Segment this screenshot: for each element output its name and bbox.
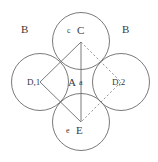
figure-container: B B c C A a D,1 D,2 e E <box>0 0 158 162</box>
label-region-b-right: B <box>122 24 129 35</box>
label-vertex-a: A <box>68 77 76 88</box>
label-vertex-c: C <box>77 25 84 36</box>
label-angle-a: a <box>79 79 83 87</box>
label-arc-c-lowercase: c <box>67 27 71 35</box>
label-region-b-left: B <box>21 24 28 35</box>
label-vertex-e: E <box>76 125 83 136</box>
label-node-d1: D,1 <box>27 78 40 87</box>
label-arc-e-lowercase: e <box>66 127 70 135</box>
edge-right-bottom <box>81 82 121 122</box>
edge-left-bottom <box>40 82 81 122</box>
edge-top-right <box>81 42 121 82</box>
label-node-d2: D,2 <box>112 78 125 87</box>
